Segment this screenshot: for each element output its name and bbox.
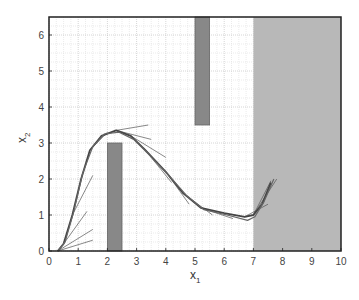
x-tick-label: 0 — [46, 256, 52, 267]
lower-obstacle — [107, 143, 122, 251]
x-tick-label: 4 — [163, 256, 169, 267]
y-tick-label: 1 — [38, 210, 44, 221]
y-tick-label: 3 — [38, 138, 44, 149]
x-tick-label: 5 — [192, 256, 198, 267]
shaded-goal-region — [253, 17, 341, 251]
x-tick-label: 7 — [251, 256, 257, 267]
shaded-goal-region — [253, 17, 341, 251]
y-tick-label: 4 — [38, 102, 44, 113]
x-axis-label: x1 — [190, 268, 201, 285]
tangent-line — [58, 229, 93, 251]
tangent-line — [64, 211, 87, 243]
tangent-line — [116, 125, 148, 130]
y-axis-ticks: 0123456 — [38, 30, 52, 257]
y-tick-label: 6 — [38, 30, 44, 41]
y-axis-label: x2 — [15, 132, 32, 143]
tangent-line — [72, 175, 92, 215]
chart-svg: 012345678910 0123456 x1 x2 — [0, 0, 359, 300]
x-tick-label: 9 — [309, 256, 315, 267]
x-tick-label: 3 — [134, 256, 140, 267]
y-tick-label: 5 — [38, 66, 44, 77]
x-tick-label: 2 — [105, 256, 111, 267]
x-tick-label: 1 — [75, 256, 81, 267]
x-tick-label: 6 — [221, 256, 227, 267]
y-tick-label: 2 — [38, 174, 44, 185]
upper-obstacle — [195, 17, 210, 125]
x-tick-label: 8 — [280, 256, 286, 267]
x-tick-label: 10 — [335, 256, 347, 267]
grid-lines — [49, 17, 253, 251]
y-tick-label: 0 — [38, 246, 44, 257]
